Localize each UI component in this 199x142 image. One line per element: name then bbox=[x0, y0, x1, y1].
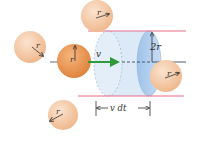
sphere-left: r bbox=[14, 31, 46, 63]
sphere-moving: r bbox=[57, 44, 91, 78]
sphere-right: r bbox=[150, 60, 182, 92]
collision-cylinder-diagram: 2r r r r v r r v dt bbox=[0, 0, 199, 142]
diameter-label: 2r bbox=[149, 41, 162, 52]
cylinder-back-end bbox=[94, 31, 122, 96]
sphere-bottom: r bbox=[48, 100, 78, 130]
velocity-label: v bbox=[96, 49, 101, 59]
distance-dimension: v dt bbox=[96, 101, 150, 116]
distance-label: v dt bbox=[110, 103, 127, 113]
sphere-top: r bbox=[81, 0, 113, 32]
